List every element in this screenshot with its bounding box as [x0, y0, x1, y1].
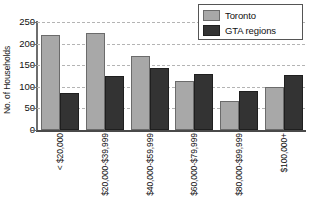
x-axis-category-label: $60,000-$79,999	[188, 133, 200, 221]
y-axis-tick-mark	[31, 130, 37, 131]
bar-gta-regions	[284, 75, 303, 130]
y-axis-tick-mark	[31, 108, 37, 109]
bar-toronto	[220, 101, 239, 130]
x-axis-category-label-text: $40,000-$59,999	[145, 133, 155, 196]
x-axis-category-label: $100,000+	[278, 133, 290, 221]
y-axis-title: No. of Households	[0, 30, 14, 130]
bar-toronto	[131, 56, 150, 130]
x-axis-category-label-text: $100,000+	[279, 133, 289, 173]
legend-item-label: GTA regions	[225, 25, 276, 36]
bar-toronto	[86, 33, 105, 130]
x-axis-category-label-text: < $20,000	[55, 133, 65, 170]
x-axis-category-label: $40,000-$59,999	[144, 133, 156, 221]
bar-gta-regions	[105, 76, 124, 130]
legend-item: Toronto	[203, 8, 298, 22]
x-axis-category-labels: < $20,000$20,000-$39,999$40,000-$59,999$…	[37, 133, 305, 223]
x-axis-category-label-text: $80,000-$99,999	[234, 133, 244, 196]
bar-toronto	[175, 81, 194, 130]
y-axis-title-text: No. of Households	[2, 46, 12, 114]
x-axis-category-label: $20,000-$39,999	[99, 133, 111, 221]
legend: TorontoGTA regions	[198, 4, 303, 40]
bar-gta-regions	[239, 91, 258, 130]
bar-gta-regions	[150, 68, 169, 130]
bar-toronto	[265, 87, 284, 130]
x-axis-category-label-text: $20,000-$39,999	[100, 133, 110, 196]
y-axis-tick-mark	[31, 87, 37, 88]
x-axis-category-label-text: $60,000-$79,999	[189, 133, 199, 196]
y-axis-tick-labels: 250200150100500	[13, 16, 35, 136]
bar-toronto	[41, 35, 60, 130]
y-axis-tick-mark	[31, 22, 37, 23]
legend-item: GTA regions	[203, 23, 298, 37]
legend-item-label: Toronto	[225, 10, 256, 21]
bar-gta-regions	[60, 93, 79, 130]
x-axis-line	[36, 130, 306, 132]
x-axis-category-label: $80,000-$99,999	[233, 133, 245, 221]
x-axis-category-label: < $20,000	[54, 133, 66, 221]
bar-chart: No. of Households 250200150100500 < $20,…	[0, 0, 310, 223]
legend-swatch-gta-regions	[203, 25, 220, 36]
y-axis-tick-mark	[31, 65, 37, 66]
y-axis-tick-mark	[31, 44, 37, 45]
legend-swatch-toronto	[203, 10, 220, 21]
bar-gta-regions	[194, 74, 213, 130]
